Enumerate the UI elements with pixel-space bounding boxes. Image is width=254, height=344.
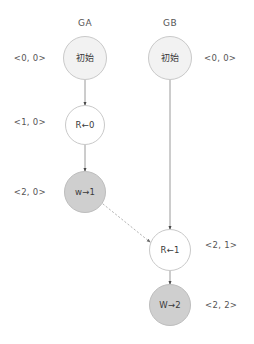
node-gb-initial[interactable]: 初始 [148, 36, 192, 80]
vector-clock-diagram: GAGB 初始R←0w→1初始R←1W→2 <0, 0><1, 0><2, 0>… [0, 0, 254, 344]
node-label: W→2 [159, 301, 181, 310]
node-ga-write-1[interactable]: w→1 [64, 171, 106, 213]
vector-clock-label: <1, 0> [14, 118, 46, 127]
column-header-gb: GB [163, 18, 177, 28]
vector-clock-label: <2, 0> [14, 188, 46, 197]
edge-layer [0, 0, 254, 344]
edge-dotted [103, 204, 150, 242]
node-ga-read-0[interactable]: R←0 [65, 105, 105, 145]
vector-clock-label: <2, 2> [205, 301, 237, 310]
node-label: 初始 [161, 54, 180, 63]
node-ga-initial[interactable]: 初始 [63, 36, 107, 80]
node-gb-write-2[interactable]: W→2 [149, 284, 191, 326]
node-label: R←1 [160, 246, 179, 255]
column-header-ga: GA [78, 18, 92, 28]
node-label: w→1 [75, 188, 95, 197]
node-label: 初始 [76, 54, 95, 63]
vector-clock-label: <2, 1> [205, 241, 237, 250]
node-gb-read-1[interactable]: R←1 [149, 229, 191, 271]
vector-clock-label: <0, 0> [204, 54, 236, 63]
node-label: R←0 [75, 121, 94, 130]
vector-clock-label: <0, 0> [14, 54, 46, 63]
